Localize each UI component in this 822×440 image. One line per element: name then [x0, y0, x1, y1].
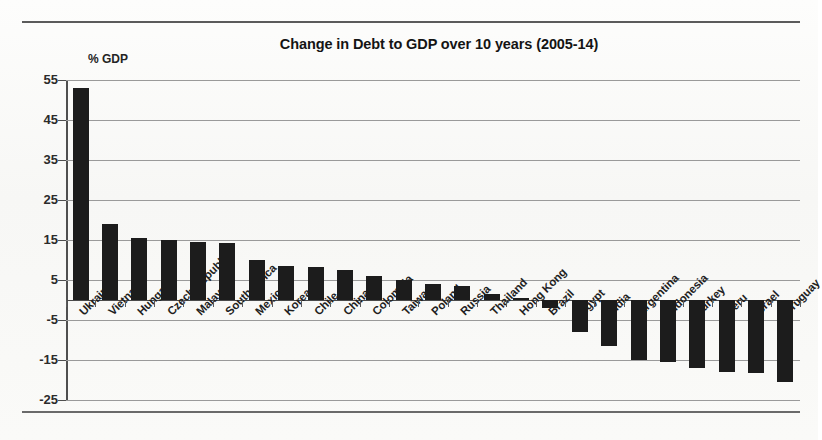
- category-tick: [330, 300, 331, 307]
- category-tick: [418, 300, 419, 307]
- bar[interactable]: [161, 240, 177, 300]
- category-tick: [301, 300, 302, 307]
- bar[interactable]: [542, 300, 558, 308]
- bar[interactable]: [719, 300, 735, 372]
- category-tick: [242, 300, 243, 307]
- category-tick: [66, 300, 67, 307]
- bar[interactable]: [484, 294, 500, 300]
- bar[interactable]: [366, 276, 382, 300]
- y-axis-label: -5: [18, 312, 58, 327]
- category-tick: [594, 300, 595, 307]
- y-axis-tick: [58, 400, 66, 401]
- bar[interactable]: [337, 270, 353, 300]
- y-axis-tick: [58, 200, 66, 201]
- category-tick: [683, 300, 684, 307]
- y-axis-label: 25: [18, 192, 58, 207]
- bar[interactable]: [631, 300, 647, 360]
- bar[interactable]: [190, 242, 206, 300]
- bar[interactable]: [748, 300, 764, 373]
- y-axis-tick: [58, 240, 66, 241]
- category-tick: [272, 300, 273, 307]
- y-axis-tick: [58, 320, 66, 321]
- category-tick: [771, 300, 772, 307]
- y-axis-tick: [58, 360, 66, 361]
- bar[interactable]: [308, 267, 324, 300]
- bar[interactable]: [601, 300, 617, 346]
- category-tick: [360, 300, 361, 307]
- y-axis-caption: % GDP: [88, 52, 128, 66]
- category-tick: [154, 300, 155, 307]
- category-tick: [477, 300, 478, 307]
- bar[interactable]: [689, 300, 705, 368]
- category-tick: [800, 300, 801, 307]
- y-axis-tick: [58, 280, 66, 281]
- y-axis-tick: [58, 80, 66, 81]
- y-axis-label: 5: [18, 272, 58, 287]
- gridline: [66, 400, 800, 401]
- bar[interactable]: [425, 284, 441, 300]
- category-tick: [448, 300, 449, 307]
- chart-title: Change in Debt to GDP over 10 years (200…: [0, 36, 818, 52]
- y-axis-label: 55: [18, 72, 58, 87]
- category-tick: [506, 300, 507, 307]
- bar[interactable]: [249, 260, 265, 300]
- category-tick: [741, 300, 742, 307]
- bar[interactable]: [572, 300, 588, 332]
- y-axis-tick: [58, 120, 66, 121]
- bar[interactable]: [513, 298, 529, 300]
- category-tick: [389, 300, 390, 307]
- bar[interactable]: [131, 238, 147, 300]
- category-tick: [536, 300, 537, 307]
- y-axis-label: -25: [18, 392, 58, 407]
- bar[interactable]: [73, 88, 89, 300]
- category-tick: [213, 300, 214, 307]
- category-tick: [565, 300, 566, 307]
- category-tick: [712, 300, 713, 307]
- bar[interactable]: [219, 243, 235, 300]
- bar[interactable]: [278, 266, 294, 300]
- bar[interactable]: [777, 300, 793, 382]
- category-tick: [125, 300, 126, 307]
- category-tick: [624, 300, 625, 307]
- y-axis-label: 15: [18, 232, 58, 247]
- category-tick: [653, 300, 654, 307]
- bar[interactable]: [396, 280, 412, 300]
- y-axis-label: 35: [18, 152, 58, 167]
- y-axis-label: 45: [18, 112, 58, 127]
- bar[interactable]: [660, 300, 676, 362]
- bar[interactable]: [454, 286, 470, 300]
- category-tick: [183, 300, 184, 307]
- bar[interactable]: [102, 224, 118, 300]
- y-axis-tick: [58, 160, 66, 161]
- y-axis-label: -15: [18, 352, 58, 367]
- category-tick: [95, 300, 96, 307]
